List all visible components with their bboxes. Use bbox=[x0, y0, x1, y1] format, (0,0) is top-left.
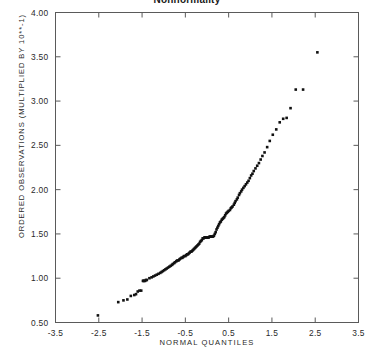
svg-text:2.5: 2.5 bbox=[309, 328, 322, 338]
svg-text:-3.5: -3.5 bbox=[48, 328, 64, 338]
svg-text:-2.5: -2.5 bbox=[91, 328, 107, 338]
normal-probability-plot: -3.5-2.5-1.5-0.50.51.52.53.50.501.001.50… bbox=[0, 0, 374, 356]
svg-text:3.00: 3.00 bbox=[31, 96, 49, 106]
x-axis-title: NORMAL QUANTILES bbox=[55, 338, 359, 347]
svg-text:-1.5: -1.5 bbox=[134, 328, 150, 338]
svg-text:0.5: 0.5 bbox=[222, 328, 235, 338]
svg-text:-0.5: -0.5 bbox=[178, 328, 194, 338]
svg-text:1.5: 1.5 bbox=[266, 328, 279, 338]
svg-text:0.50: 0.50 bbox=[31, 318, 49, 328]
plot-axes bbox=[56, 13, 359, 323]
svg-text:2.00: 2.00 bbox=[31, 185, 49, 195]
svg-text:3.50: 3.50 bbox=[31, 52, 49, 62]
chart-figure: Nonnormality -3.5-2.5-1.5-0.50.51.52.53.… bbox=[0, 0, 374, 356]
y-axis-title: ORDERED OBSERVATIONS (MULTIPLIED BY 10**… bbox=[17, 14, 26, 238]
axis-ticks bbox=[56, 13, 359, 323]
axis-tick-labels: -3.5-2.5-1.5-0.50.51.52.53.50.501.001.50… bbox=[31, 8, 365, 338]
svg-text:2.50: 2.50 bbox=[31, 140, 49, 150]
svg-text:1.50: 1.50 bbox=[31, 229, 49, 239]
y-axis-title-wrap: ORDERED OBSERVATIONS (MULTIPLIED BY 10**… bbox=[14, 0, 28, 266]
svg-text:1.00: 1.00 bbox=[31, 273, 49, 283]
svg-text:3.5: 3.5 bbox=[352, 328, 365, 338]
data-points bbox=[97, 51, 319, 317]
svg-text:4.00: 4.00 bbox=[31, 8, 49, 18]
